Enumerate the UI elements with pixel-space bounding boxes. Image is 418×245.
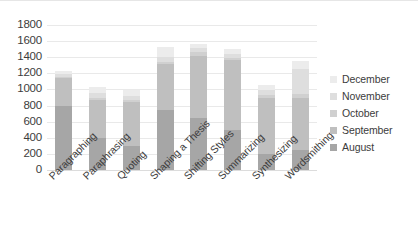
- y-axis-tick-label: 1800: [0, 19, 42, 31]
- bar-segment[interactable]: [157, 64, 174, 109]
- y-axis-tick-label: 800: [0, 100, 42, 112]
- legend-item[interactable]: August: [330, 139, 418, 155]
- legend-swatch-icon: [330, 127, 337, 134]
- x-axis-label-slot: Synthesizing: [250, 170, 284, 245]
- chart-legend: DecemberNovemberOctoberSeptemberAugust: [330, 71, 418, 156]
- legend-swatch-icon: [330, 144, 337, 151]
- legend-item-label: December: [342, 74, 390, 85]
- y-axis-tick-label: 1200: [0, 67, 42, 79]
- bar-segment[interactable]: [55, 78, 72, 105]
- y-axis-tick-label: 1000: [0, 83, 42, 95]
- x-axis-label-slot: Wordsmithing: [283, 170, 317, 245]
- legend-item-label: September: [342, 125, 392, 136]
- bar-segment[interactable]: [292, 61, 309, 68]
- y-axis-tick-label: 1400: [0, 51, 42, 63]
- legend-item-label: November: [342, 91, 390, 102]
- x-axis-label-slot: Quoting: [115, 170, 149, 245]
- legend-item[interactable]: October: [330, 105, 418, 121]
- x-axis: ParagraphingParaphrasingQuotingShaping a…: [47, 170, 317, 245]
- bar-segment[interactable]: [157, 47, 174, 57]
- legend-swatch-icon: [330, 93, 337, 100]
- legend-item-label: August: [342, 142, 374, 153]
- y-axis-tick-label: 0: [0, 164, 42, 176]
- legend-item[interactable]: November: [330, 88, 418, 104]
- bar-segment[interactable]: [190, 56, 207, 118]
- bar-segment[interactable]: [292, 69, 309, 95]
- legend-item-label: October: [342, 108, 379, 119]
- y-axis-tick-label: 200: [0, 148, 42, 160]
- x-axis-label-slot: Shifting Styles: [182, 170, 216, 245]
- legend-swatch-icon: [330, 76, 337, 83]
- stacked-bar-chart: 180016001400120010008006004002000 Paragr…: [0, 0, 418, 245]
- x-axis-label-slot: Shaping a Thesis: [148, 170, 182, 245]
- x-axis-label-slot: Paragraphing: [47, 170, 81, 245]
- bar-segment[interactable]: [258, 98, 275, 154]
- legend-swatch-icon: [330, 110, 337, 117]
- y-axis-tick-label: 1600: [0, 35, 42, 47]
- bar-segment[interactable]: [224, 60, 241, 129]
- legend-item[interactable]: December: [330, 71, 418, 87]
- y-axis-tick-label: 600: [0, 116, 42, 128]
- legend-item[interactable]: September: [330, 122, 418, 138]
- y-axis: 180016001400120010008006004002000: [0, 1, 46, 245]
- x-axis-label-slot: Paraphrasing: [81, 170, 115, 245]
- x-axis-label-slot: Summarizing: [216, 170, 250, 245]
- y-axis-tick-label: 400: [0, 132, 42, 144]
